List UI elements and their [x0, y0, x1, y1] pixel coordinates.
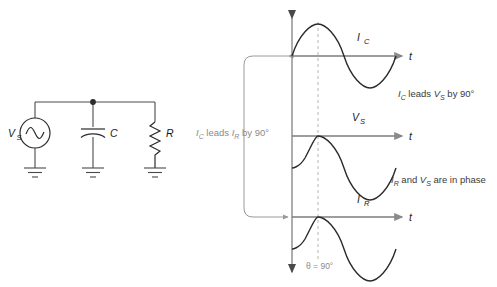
annotation-ir-in-phase-vs: IR and VS are in phase	[391, 174, 486, 187]
waveform-ir-axis-label: t	[409, 211, 413, 223]
svg-text:IR and VS are in phase: IR and VS are in phase	[391, 174, 486, 187]
waveform-ic-axis-label: t	[409, 50, 413, 62]
ground-symbol-source	[24, 168, 46, 177]
waveform-vs: V S t	[292, 111, 413, 200]
waveform-ic-label: I	[357, 31, 360, 43]
bracket-annotation: IC leads IR by 90°	[196, 127, 269, 140]
theta-label: θ = 90°	[306, 261, 333, 271]
rc-circuit-waveform-figure: V S C R	[0, 0, 497, 287]
resistor-symbol	[150, 122, 160, 168]
ac-voltage-source	[20, 118, 50, 168]
capacitor-label: C	[110, 127, 118, 139]
circuit-diagram: V S C R	[8, 99, 174, 177]
ann2-suffix: are in phase	[431, 174, 486, 185]
annotation-ic-leads-vs: IC leads VS by 90°	[398, 88, 475, 101]
waveform-ic-sublabel: C	[364, 37, 370, 46]
waveform-vs-axis-label: t	[409, 130, 413, 142]
source-label-sub: S	[17, 133, 22, 142]
waveform-ir-sublabel: R	[364, 199, 370, 208]
figure-container: V S C R	[0, 0, 497, 287]
ann1-middle: leads	[406, 88, 434, 99]
junction-node	[90, 99, 96, 105]
waveform-ir-label: I	[357, 193, 360, 205]
waveform-ic: I C t	[292, 24, 413, 88]
svg-text:IC leads IR by 90°: IC leads IR by 90°	[196, 127, 269, 140]
ann2-middle: and	[399, 174, 420, 185]
resistor-label: R	[166, 127, 174, 139]
bracket-text-middle: leads	[204, 127, 232, 138]
source-label: V	[8, 127, 16, 139]
waveform-vs-label: V	[352, 111, 360, 123]
ground-symbol-resistor	[144, 168, 166, 177]
waveform-vs-sublabel: S	[360, 117, 365, 126]
svg-text:IC leads VS by 90°: IC leads VS by 90°	[398, 88, 475, 101]
ann1-suffix: by 90°	[445, 88, 475, 99]
bracket-text-suffix: by 90°	[239, 127, 269, 138]
capacitor-symbol	[81, 129, 105, 168]
ground-symbol-capacitor	[82, 168, 104, 177]
